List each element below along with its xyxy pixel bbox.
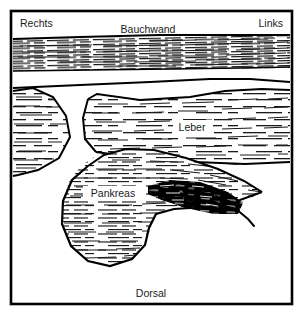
label-dorsal: Dorsal <box>136 287 166 299</box>
label-leber: Leber <box>179 121 206 133</box>
label-orientation-left: Links <box>258 17 283 29</box>
diagram-canvas: Rechts Links Bauchwand Dorsal Leber Pank… <box>0 0 303 318</box>
label-orientation-right: Rechts <box>20 17 53 29</box>
label-pankreas: Pankreas <box>91 187 135 199</box>
label-bauchwand: Bauchwand <box>121 23 176 35</box>
anatomical-diagram: Rechts Links Bauchwand Dorsal Leber Pank… <box>0 0 303 318</box>
label-pankreas-group: Pankreas <box>83 186 144 201</box>
label-leber-group: Leber <box>173 120 213 135</box>
